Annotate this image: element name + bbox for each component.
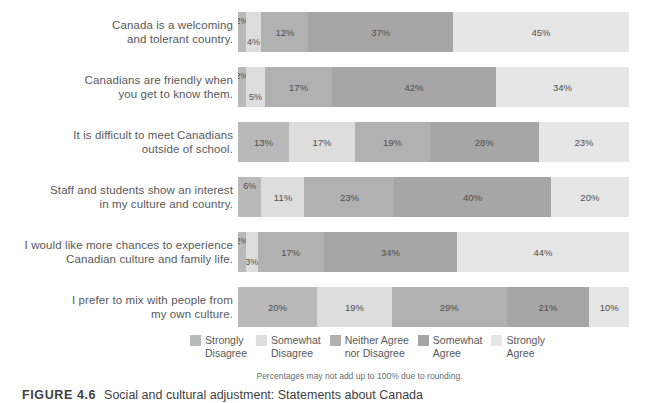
chart-row-label-line: I would like more chances to experience bbox=[0, 238, 233, 253]
chart-bar-segment: 20% bbox=[238, 287, 317, 327]
legend-item-label: SomewhatAgree bbox=[433, 334, 483, 360]
chart-bar-segment: 20% bbox=[551, 177, 629, 217]
chart-bar-segment: 2% bbox=[238, 232, 246, 272]
chart-bar-segment: 45% bbox=[453, 12, 629, 52]
chart-row: It is difficult to meet Canadiansoutside… bbox=[0, 122, 661, 162]
legend-item-label-line: Strongly bbox=[205, 334, 247, 347]
chart-row-label-line: in my culture and country. bbox=[0, 197, 233, 212]
chart-bar-segment: 17% bbox=[258, 232, 324, 272]
chart-bar-segment: 2% bbox=[238, 12, 246, 52]
legend-item-label-line: Somewhat bbox=[271, 334, 321, 347]
legend-item-label-line: Agree bbox=[506, 347, 545, 360]
chart-bar-segment: 3% bbox=[246, 232, 258, 272]
chart-row-label-line: my own culture. bbox=[0, 307, 233, 322]
legend-swatch-icon bbox=[418, 335, 429, 346]
chart-bar-segment: 19% bbox=[317, 287, 392, 327]
chart-bar-segment: 11% bbox=[261, 177, 304, 217]
chart-bar: 6%11%23%40%20% bbox=[238, 177, 629, 217]
chart-bar-segment: 34% bbox=[496, 67, 629, 107]
chart-row-label: Staff and students show an interestin my… bbox=[0, 183, 238, 212]
chart-legend: StronglyDisagreeSomewhatDisagreeNeither … bbox=[190, 334, 640, 360]
chart-bar: 2%5%17%42%34% bbox=[238, 67, 629, 107]
chart-bar-segment: 10% bbox=[589, 287, 628, 327]
chart-bar-segment: 12% bbox=[261, 12, 308, 52]
chart-bar-segment: 28% bbox=[430, 122, 539, 162]
chart-bar: 13%17%19%28%23% bbox=[238, 122, 629, 162]
legend-item-label-line: Neither Agree bbox=[345, 334, 409, 347]
legend-swatch-icon bbox=[256, 335, 267, 346]
legend-item-label-line: Disagree bbox=[271, 347, 321, 360]
chart-bar-segment: 21% bbox=[507, 287, 590, 327]
chart-bar-segment: 23% bbox=[304, 177, 394, 217]
chart-bar-segment: 2% bbox=[238, 67, 246, 107]
chart-row-label-line: and tolerant country. bbox=[0, 32, 233, 47]
chart-bar: 20%19%29%21%10% bbox=[238, 287, 629, 327]
legend-swatch-icon bbox=[330, 335, 341, 346]
chart-bar-segment: 17% bbox=[265, 67, 331, 107]
chart-rows: Canada is a welcomingand tolerant countr… bbox=[0, 12, 661, 342]
chart-row-label-line: you get to know them. bbox=[0, 87, 233, 102]
chart-row: I would like more chances to experienceC… bbox=[0, 232, 661, 272]
chart-row: I prefer to mix with people frommy own c… bbox=[0, 287, 661, 327]
chart-bar-segment: 34% bbox=[324, 232, 457, 272]
chart-footnote: Percentages may not add up to 100% due t… bbox=[0, 371, 661, 381]
legend-item-label: StronglyDisagree bbox=[205, 334, 247, 360]
figure-caption-text: Social and cultural adjustment: Statemen… bbox=[104, 388, 423, 402]
figure-caption: FIGURE 4.6Social and cultural adjustment… bbox=[22, 388, 642, 403]
chart-row-label-line: Canadians are friendly when bbox=[0, 73, 233, 88]
chart-row-label-line: outside of school. bbox=[0, 142, 233, 157]
chart-bar-segment: 4% bbox=[246, 12, 262, 52]
legend-item[interactable]: StronglyAgree bbox=[491, 334, 545, 360]
chart-bar-segment: 6% bbox=[238, 177, 261, 217]
chart-row-label: Canada is a welcomingand tolerant countr… bbox=[0, 18, 238, 47]
chart-row-label-line: Canada is a welcoming bbox=[0, 18, 233, 33]
legend-swatch-icon bbox=[190, 335, 201, 346]
chart-bar-segment: 17% bbox=[289, 122, 355, 162]
chart-row-label-line: Canadian culture and family life. bbox=[0, 252, 233, 267]
legend-item-label: StronglyAgree bbox=[506, 334, 545, 360]
chart-row-label-line: Staff and students show an interest bbox=[0, 183, 233, 198]
legend-item[interactable]: SomewhatDisagree bbox=[256, 334, 321, 360]
figure-caption-number: FIGURE 4.6 bbox=[22, 388, 96, 402]
chart-row-label: I prefer to mix with people frommy own c… bbox=[0, 293, 238, 322]
legend-item-label: SomewhatDisagree bbox=[271, 334, 321, 360]
chart-bar: 2%3%17%34%44% bbox=[238, 232, 629, 272]
chart-row-label-line: It is difficult to meet Canadians bbox=[0, 128, 233, 143]
chart-row-label: Canadians are friendly whenyou get to kn… bbox=[0, 73, 238, 102]
legend-item-label-line: Strongly bbox=[506, 334, 545, 347]
legend-item[interactable]: Neither Agreenor Disagree bbox=[330, 334, 409, 360]
legend-item-label-line: Somewhat bbox=[433, 334, 483, 347]
chart-bar-segment: 5% bbox=[246, 67, 266, 107]
chart-bar: 2%4%12%37%45% bbox=[238, 12, 629, 52]
chart-row: Canada is a welcomingand tolerant countr… bbox=[0, 12, 661, 52]
legend-item[interactable]: StronglyDisagree bbox=[190, 334, 247, 360]
chart-row-label: It is difficult to meet Canadiansoutside… bbox=[0, 128, 238, 157]
chart-row-label: I would like more chances to experienceC… bbox=[0, 238, 238, 267]
chart-bar-segment: 40% bbox=[394, 177, 550, 217]
legend-item-label-line: Agree bbox=[433, 347, 483, 360]
chart-row-label-line: I prefer to mix with people from bbox=[0, 293, 233, 308]
legend-item-label-line: Disagree bbox=[205, 347, 247, 360]
chart-bar-segment: 29% bbox=[392, 287, 507, 327]
legend-item-label-line: nor Disagree bbox=[345, 347, 409, 360]
chart-bar-segment: 37% bbox=[308, 12, 453, 52]
chart-bar-segment: 23% bbox=[539, 122, 629, 162]
chart-bar-segment: 13% bbox=[238, 122, 289, 162]
legend-item[interactable]: SomewhatAgree bbox=[418, 334, 483, 360]
chart-bar-segment: 19% bbox=[355, 122, 429, 162]
chart-row: Staff and students show an interestin my… bbox=[0, 177, 661, 217]
chart-row: Canadians are friendly whenyou get to kn… bbox=[0, 67, 661, 107]
chart-bar-segment: 42% bbox=[332, 67, 496, 107]
chart-bar-segment: 44% bbox=[457, 232, 629, 272]
legend-item-label: Neither Agreenor Disagree bbox=[345, 334, 409, 360]
legend-swatch-icon bbox=[491, 335, 502, 346]
